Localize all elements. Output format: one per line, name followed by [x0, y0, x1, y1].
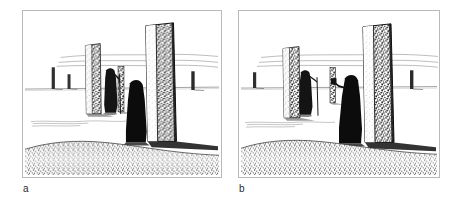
panel-a-illustration — [23, 11, 221, 177]
panel-a-image-frame — [22, 10, 222, 178]
panel-b-image-frame — [238, 10, 440, 178]
raised-object — [331, 78, 337, 84]
figure-root: a — [0, 0, 457, 202]
panel-a: a — [0, 0, 228, 202]
panel-b: b — [228, 0, 457, 202]
panel-b-illustration — [239, 11, 439, 177]
panel-a-caption-letter: a — [23, 183, 29, 195]
panel-b-caption-letter: b — [239, 183, 245, 195]
